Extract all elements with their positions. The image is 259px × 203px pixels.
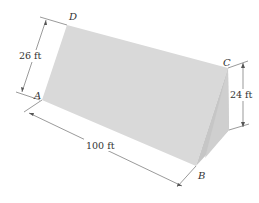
- prism-diagram: 26 ft 24 ft 100 ft D A C B: [0, 0, 259, 203]
- sloped-face: [42, 25, 228, 166]
- dimension-label-26ft: 26 ft: [19, 50, 42, 61]
- dimension-label-100ft: 100 ft: [86, 140, 115, 151]
- dimension-label-24ft: 24 ft: [230, 89, 253, 100]
- vertex-label-a: A: [33, 90, 41, 101]
- vertex-label-b: B: [197, 170, 205, 181]
- vertex-label-d: D: [68, 11, 77, 22]
- vertex-label-c: C: [223, 57, 231, 68]
